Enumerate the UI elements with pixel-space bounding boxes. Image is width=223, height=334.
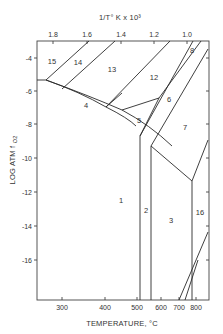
top-axis-ticks: 1.8 1.6 1.4 1.2 1.0: [48, 31, 192, 44]
top-axis-title: 1/T° K x 10³: [99, 13, 141, 22]
bottom-tick-label: 700: [173, 304, 185, 311]
top-tick-label: 1.4: [116, 31, 126, 38]
region-label-12: 12: [150, 73, 158, 82]
svg-text:LOG ATM f O2: LOG ATM f O2: [8, 136, 18, 185]
top-tick-label: 1.0: [182, 31, 192, 38]
left-axis-ticks: -4 -6 -8 -10 -12 -14 -16: [22, 55, 37, 264]
left-tick-label: -14: [22, 223, 32, 230]
region-label-6: 6: [167, 95, 171, 104]
top-tick-label: 1.8: [48, 31, 58, 38]
region-label-7: 7: [183, 123, 187, 132]
region-label-13: 13: [108, 65, 116, 74]
left-tick-label: -4: [26, 55, 32, 62]
region-label-4: 4: [84, 101, 88, 110]
region-label-2: 2: [144, 206, 148, 215]
region-label-14: 14: [74, 58, 82, 67]
region-labels: 15 14 13 12 8 6 4 5 7 1 2 3 16: [48, 46, 204, 225]
bottom-tick-label: 500: [131, 304, 143, 311]
left-tick-label: -6: [26, 88, 32, 95]
bottom-tick-label: 600: [155, 304, 167, 311]
top-tick-label: 1.6: [82, 31, 92, 38]
bottom-tick-label: 800: [190, 304, 202, 311]
top-tick-label: 1.2: [149, 31, 159, 38]
left-tick-label: -8: [26, 121, 32, 128]
bottom-axis-title: TEMPERATURE, °C: [86, 319, 158, 328]
bottom-axis-ticks: 300 400 500 600 700 800: [56, 297, 202, 311]
region-label-8: 8: [190, 46, 194, 55]
left-tick-label: -12: [22, 189, 32, 196]
phase-diagram: 1/T° K x 10³ 1.8 1.6 1.4 1.2 1.0 -4 -6 -…: [0, 0, 223, 334]
left-tick-label: -16: [22, 257, 32, 264]
phase-boundaries: [37, 41, 208, 300]
region-label-5: 5: [137, 116, 141, 125]
region-label-3: 3: [169, 216, 173, 225]
plot-frame: [37, 41, 209, 300]
bottom-tick-label: 400: [99, 304, 111, 311]
region-label-16: 16: [196, 208, 204, 217]
region-label-1: 1: [119, 196, 123, 205]
bottom-tick-label: 300: [56, 304, 68, 311]
left-tick-label: -10: [22, 155, 32, 162]
left-axis-title: LOG ATM f O2: [8, 136, 18, 185]
region-label-15: 15: [48, 57, 56, 66]
